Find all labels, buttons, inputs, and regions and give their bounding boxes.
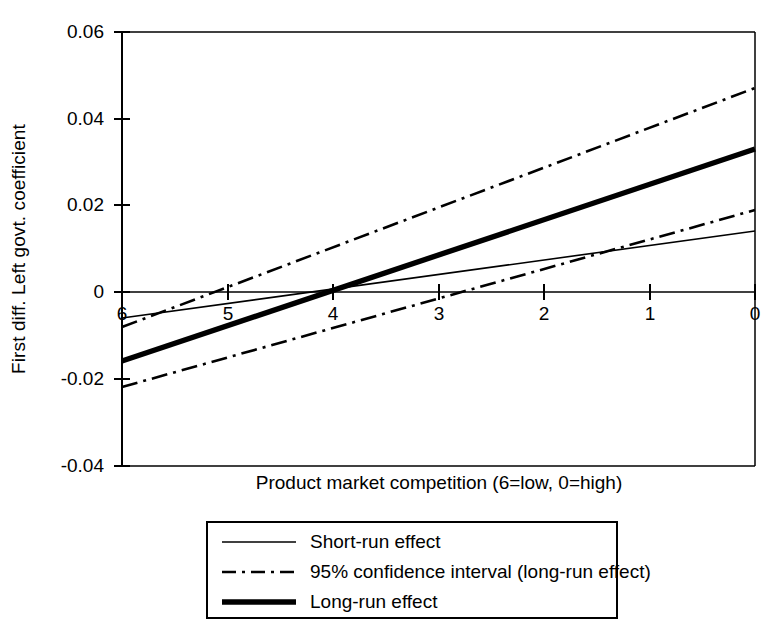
y-axis-title: First diff. Left govt. coefficient [8, 124, 30, 374]
x-tick-label-0: 6 [117, 303, 128, 325]
axis-frame [122, 32, 755, 466]
legend-item-confidence-interval: 95% confidence interval (long-run effect… [208, 557, 616, 587]
chart-figure: 0.06 0.04 0.02 0 -0.02 -0.04 6 5 4 3 2 1… [0, 0, 773, 644]
x-tick-label-2: 4 [328, 303, 339, 325]
legend-item-short-run: Short-run effect [208, 527, 616, 557]
legend-label-long-run: Long-run effect [296, 591, 437, 613]
legend-label-confidence-interval: 95% confidence interval (long-run effect… [296, 561, 651, 583]
x-axis-title: Product market competition (6=low, 0=hig… [122, 472, 756, 494]
x-tick-label-1: 5 [223, 303, 234, 325]
legend-label-short-run: Short-run effect [296, 531, 441, 553]
legend-key-dash-dot-icon [222, 565, 296, 579]
series-long-run [122, 149, 755, 361]
legend-item-long-run: Long-run effect [208, 587, 616, 617]
legend-key-solid-thin-icon [222, 535, 296, 549]
y-axis-title-wrap: First diff. Left govt. coefficient [4, 32, 34, 466]
legend-key-solid-thick-icon [222, 595, 296, 609]
x-tick-label-5: 1 [645, 303, 656, 325]
x-tick-label-4: 2 [539, 303, 550, 325]
x-tick-label-3: 3 [434, 303, 445, 325]
x-tick-label-6: 0 [750, 303, 761, 325]
chart-legend: Short-run effect 95% confidence interval… [206, 521, 618, 619]
